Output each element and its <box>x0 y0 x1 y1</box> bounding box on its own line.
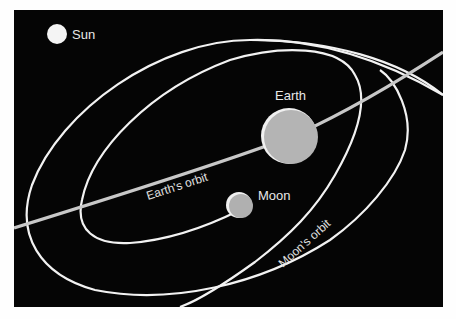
orbit-diagram: Sun Earth Moon Earth's orbit Moon's orbi… <box>0 0 456 319</box>
moon-label: Moon <box>258 188 291 203</box>
outer-orbit-path <box>27 40 443 295</box>
moon-icon <box>226 192 253 218</box>
outer-orbit-tail <box>250 40 443 95</box>
sun-label: Sun <box>72 27 95 42</box>
sun-icon <box>47 24 67 44</box>
inner-orbit-path <box>81 50 361 307</box>
earth-icon <box>261 108 318 164</box>
earth-label: Earth <box>275 88 306 103</box>
